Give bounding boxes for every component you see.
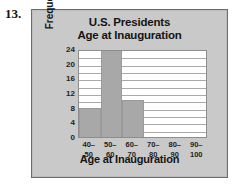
y-tick-label: 12 [55, 90, 75, 98]
y-tick-label: 8 [55, 105, 75, 113]
gridline [79, 95, 206, 96]
x-tick-range-low: 90– [186, 140, 208, 150]
plot-wrapper [78, 50, 207, 138]
x-tick-range-low: 60– [121, 140, 143, 150]
y-tick-label: 4 [55, 119, 75, 127]
y-tick-label: 20 [55, 61, 75, 69]
x-tick-range-low: 80– [164, 140, 186, 150]
y-tick-label: 0 [55, 134, 75, 142]
y-tick-label: 24 [55, 46, 75, 54]
problem-number: 13. [5, 6, 21, 22]
y-axis-tick-labels: 24201612840 [54, 50, 75, 138]
x-axis-title: Age at Inauguration [32, 153, 227, 165]
gridline [79, 80, 206, 81]
y-tick-label: 16 [55, 75, 75, 83]
bar [79, 108, 101, 137]
gridline [79, 66, 206, 67]
worksheet-page: 13. U.S. Presidents Age at Inauguration … [0, 0, 239, 184]
plot-area [78, 50, 207, 138]
y-axis-title: Frequency [44, 0, 58, 49]
gridline [79, 58, 206, 59]
chart-frame: U.S. Presidents Age at Inauguration Freq… [31, 9, 228, 178]
bar [101, 50, 123, 137]
chart-title: U.S. Presidents Age at Inauguration [32, 16, 227, 41]
bar [122, 100, 144, 137]
chart-title-line1: U.S. Presidents [89, 16, 170, 28]
gridline [79, 73, 206, 74]
x-tick-range-low: 50– [100, 140, 122, 150]
gridline [79, 88, 206, 89]
x-tick-range-low: 40– [78, 140, 100, 150]
x-tick-range-low: 70– [143, 140, 165, 150]
chart-title-line2: Age at Inauguration [32, 29, 227, 42]
